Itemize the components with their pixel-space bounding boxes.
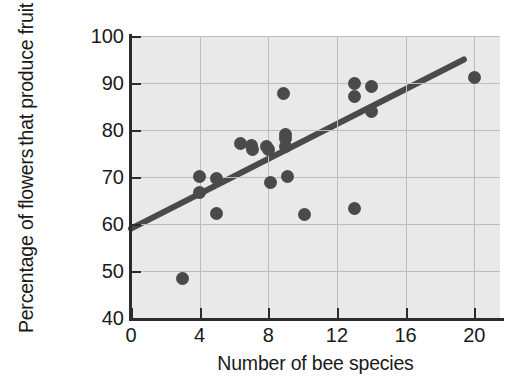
x-axis-tick	[268, 308, 270, 319]
gridline-horizontal	[131, 83, 500, 84]
data-point	[365, 105, 378, 118]
y-axis-tick	[132, 36, 141, 38]
y-axis-tick	[132, 83, 141, 85]
data-point	[193, 170, 206, 183]
data-point	[298, 208, 311, 221]
data-point	[264, 176, 277, 189]
data-point	[262, 143, 275, 156]
x-axis-tick-label: 12	[317, 324, 357, 346]
gridline-horizontal	[131, 177, 500, 178]
data-point	[348, 202, 361, 215]
gridline-horizontal	[131, 36, 500, 37]
data-point	[176, 272, 189, 285]
y-axis-tick	[132, 177, 141, 179]
y-axis-tick	[132, 224, 141, 226]
x-axis-tick	[474, 308, 476, 319]
y-axis-tick	[132, 271, 141, 273]
data-point	[279, 140, 292, 153]
data-point	[348, 90, 361, 103]
data-point	[365, 80, 378, 93]
x-axis-tick-label: 20	[454, 324, 494, 346]
y-axis-title: Percentage of flowers that produce fruit	[14, 18, 74, 318]
x-axis-tick	[131, 308, 133, 319]
y-axis-tick-label: 70	[80, 167, 124, 187]
x-axis-tick-label: 4	[180, 324, 220, 346]
x-axis-tick-label: 8	[248, 324, 288, 346]
data-point	[281, 170, 294, 183]
y-axis-tick-label: 60	[80, 214, 124, 234]
x-axis-tick	[337, 308, 339, 319]
x-axis-tick	[406, 308, 408, 319]
gridline-horizontal	[131, 224, 500, 225]
y-axis-tick-label: 100	[80, 26, 124, 46]
gridline-horizontal	[131, 271, 500, 272]
x-axis-line	[129, 318, 504, 321]
y-axis-tick-label: 90	[80, 73, 124, 93]
x-axis-tick-label: 16	[386, 324, 426, 346]
data-point	[348, 77, 361, 90]
y-axis-tick	[132, 318, 141, 320]
data-point	[468, 71, 481, 84]
y-axis-tick-label: 80	[80, 120, 124, 140]
y-axis-title-line2: that produce fruit	[14, 3, 38, 146]
y-axis-title-line1: Percentage of flowers	[14, 149, 38, 333]
scatter-plot-figure: Percentage of flowers that produce fruit…	[0, 0, 524, 385]
x-axis-tick	[200, 308, 202, 319]
y-axis-tick	[132, 130, 141, 132]
y-axis-tick-label: 50	[80, 261, 124, 281]
x-axis-tick-label: 0	[111, 324, 151, 346]
gridline-horizontal	[131, 130, 500, 131]
plot-area	[131, 36, 500, 318]
x-axis-title: Number of bee species	[131, 352, 500, 375]
data-point	[277, 87, 290, 100]
